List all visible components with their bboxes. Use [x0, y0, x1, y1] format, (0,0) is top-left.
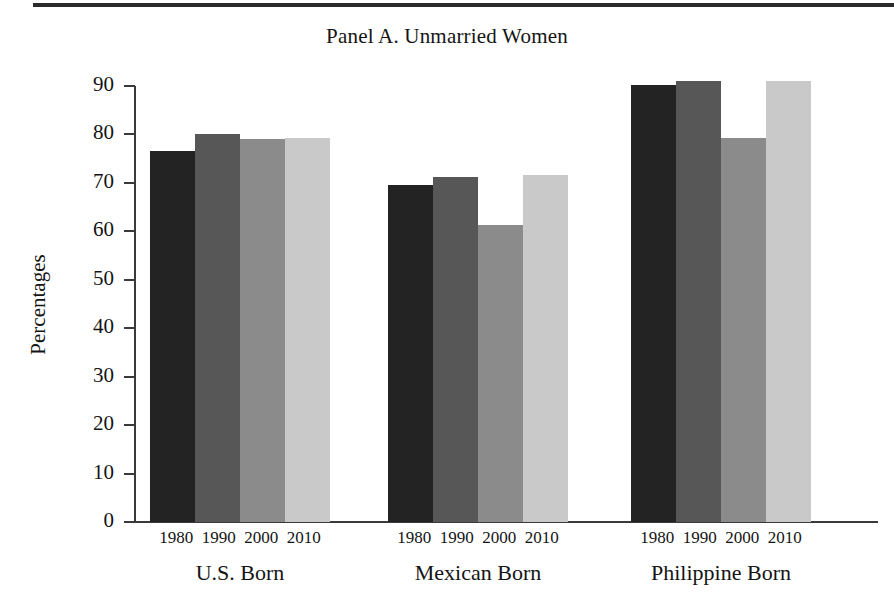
bar-mexican-born-1980: [388, 185, 433, 522]
bar-philippine-born-1990: [676, 81, 721, 522]
y-axis-tick: [124, 424, 135, 426]
y-axis-tick: [124, 279, 135, 281]
y-axis-title: Percentages: [26, 205, 51, 405]
y-axis-tick: [124, 230, 135, 232]
y-axis-tick-label: 60: [52, 219, 114, 240]
x-axis-year-labels: 1980 1990 2000 2010: [150, 528, 330, 548]
x-axis-group-label: Mexican Born: [358, 560, 598, 586]
y-axis-tick: [124, 85, 135, 87]
x-axis-year-labels: 1980 1990 2000 2010: [631, 528, 811, 548]
y-axis-tick: [124, 473, 135, 475]
y-axis-tick: [124, 376, 135, 378]
y-axis-tick-label: 30: [52, 365, 114, 386]
bar-mexican-born-2000: [478, 225, 523, 522]
y-axis-tick-label: 90: [52, 74, 114, 95]
bar-philippine-born-1980: [631, 85, 676, 522]
bar-philippine-born-2000: [721, 138, 766, 522]
bar-philippine-born-2010: [766, 81, 811, 522]
figure-panel-a: Panel A. Unmarried Women Percentages 010…: [0, 0, 894, 616]
bar-u-s-born-1990: [195, 134, 240, 522]
y-axis-tick-label: 80: [52, 122, 114, 143]
y-axis-tick-label: 0: [52, 510, 114, 531]
y-axis-tick-label: 70: [52, 171, 114, 192]
y-axis-tick-label: 50: [52, 268, 114, 289]
bar-u-s-born-2000: [240, 139, 285, 522]
bar-u-s-born-2010: [285, 138, 330, 522]
x-axis-group-label: U.S. Born: [120, 560, 360, 586]
y-axis-tick-label: 10: [52, 462, 114, 483]
y-axis-line: [134, 86, 136, 523]
x-axis-group-label: Philippine Born: [601, 560, 841, 586]
y-axis-tick: [124, 133, 135, 135]
bar-u-s-born-1980: [150, 151, 195, 522]
bar-chart-plot-area: Percentages 0102030405060708090 1980 199…: [0, 0, 894, 616]
bar-mexican-born-2010: [523, 175, 568, 522]
y-axis-tick: [124, 182, 135, 184]
y-axis-tick-label: 20: [52, 413, 114, 434]
x-axis-year-labels: 1980 1990 2000 2010: [388, 528, 568, 548]
bar-mexican-born-1990: [433, 177, 478, 522]
y-axis-tick: [124, 327, 135, 329]
y-axis-tick-label: 40: [52, 316, 114, 337]
y-axis-tick: [124, 521, 135, 523]
